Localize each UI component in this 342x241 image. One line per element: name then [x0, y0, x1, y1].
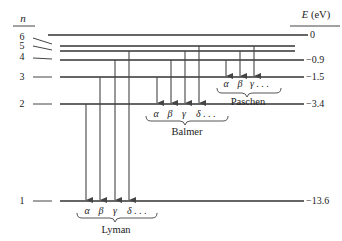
- balmer-delta: δ . . .: [196, 108, 216, 119]
- level-label-4: 4: [20, 51, 25, 62]
- n-axis-label: n: [20, 12, 26, 24]
- balmer-alpha: α: [153, 108, 159, 119]
- energy-levels: [48, 35, 308, 201]
- level-label-1: 1: [20, 195, 25, 206]
- paschen-beta: β: [237, 78, 243, 89]
- level-label-3: 3: [20, 71, 25, 82]
- balmer-name: Balmer: [172, 126, 203, 137]
- energy-axis-header: E (eV): [290, 9, 340, 26]
- lyman-arrows: [86, 51, 129, 200]
- lyman-delta: δ . . .: [127, 205, 147, 216]
- level-label-5: 5: [20, 40, 25, 51]
- paschen-alpha: α: [223, 78, 229, 89]
- energy-axis-label: E (eV): [301, 9, 331, 21]
- paschen-name: Paschen: [231, 96, 266, 107]
- balmer-arrows: [157, 46, 199, 103]
- energy-value-4: −0.9: [306, 54, 324, 65]
- balmer-gamma: γ: [182, 108, 187, 119]
- lyman-beta: β: [98, 205, 104, 216]
- lyman-name: Lyman: [101, 224, 131, 235]
- energy-value-6: 0: [310, 29, 315, 40]
- paschen-gamma: γ . . .: [250, 78, 269, 89]
- lyman-gamma: γ: [113, 205, 118, 216]
- balmer-beta: β: [167, 108, 173, 119]
- energy-value-1: −13.6: [306, 195, 329, 206]
- energy-value-3: −1.5: [306, 71, 324, 82]
- level-labels: 6 5 4 3 2 1: [20, 31, 53, 206]
- level-label-2: 2: [20, 98, 25, 109]
- lyman-series-label: α β γ δ . . . Lyman: [77, 205, 157, 235]
- lyman-alpha: α: [84, 205, 90, 216]
- energy-values: 0 −0.9 −1.5 −3.4 −13.6: [306, 29, 329, 206]
- paschen-series-label: α β γ . . . Paschen: [217, 78, 281, 107]
- n-axis-header: n: [13, 12, 35, 26]
- energy-level-diagram: n E (eV) 6 5 4 3 2 1 0 −0.9 −1.5 −3.4 −1…: [0, 0, 342, 241]
- energy-value-2: −3.4: [306, 98, 324, 109]
- balmer-series-label: α β γ δ . . . Balmer: [146, 108, 228, 137]
